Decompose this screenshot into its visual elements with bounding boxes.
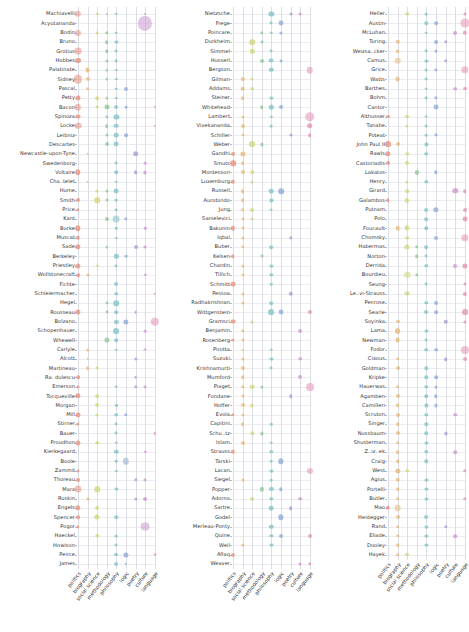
row-label: Carlyle: [5, 347, 75, 352]
data-bubble: [241, 357, 244, 360]
gridline-vertical: [262, 7, 263, 569]
axis-tick: [75, 303, 77, 304]
data-bubble: [76, 208, 79, 211]
data-bubble: [395, 226, 399, 230]
data-bubble: [404, 272, 410, 278]
gridline-horizontal: [233, 256, 310, 257]
data-bubble: [95, 534, 98, 537]
data-bubble: [415, 255, 418, 258]
row-label: Tillich: [160, 272, 230, 277]
data-bubble: [105, 134, 108, 137]
data-bubble: [241, 264, 244, 267]
axis-tick: [385, 219, 387, 220]
axis-tick: [385, 452, 387, 453]
data-bubble: [115, 199, 118, 202]
data-bubble: [269, 68, 273, 72]
axis-tick: [75, 163, 77, 164]
data-bubble: [288, 291, 292, 295]
data-bubble: [95, 441, 98, 444]
row-label: Evola: [160, 412, 230, 417]
axis-tick: [75, 294, 77, 295]
data-bubble: [453, 264, 457, 268]
row-label: Chomsky: [315, 235, 385, 240]
data-bubble: [260, 143, 263, 146]
data-bubble: [453, 188, 458, 193]
data-bubble: [115, 40, 118, 43]
data-bubble: [415, 245, 418, 248]
data-bubble: [453, 413, 456, 416]
gridline-vertical: [281, 7, 282, 569]
row-label: Aflaq: [160, 552, 230, 557]
axis-tick: [75, 359, 77, 360]
data-bubble: [115, 264, 118, 267]
row-label: Strauss: [160, 449, 230, 454]
data-bubble: [270, 208, 273, 211]
data-bubble: [270, 460, 273, 463]
data-bubble: [405, 226, 410, 231]
data-bubble: [425, 441, 428, 444]
gridline-vertical: [271, 7, 272, 569]
data-bubble: [405, 152, 408, 155]
data-bubble: [240, 86, 244, 90]
data-bubble: [434, 348, 438, 352]
data-bubble: [115, 208, 118, 211]
data-bubble: [75, 263, 80, 268]
data-bubble: [105, 40, 109, 44]
data-bubble: [453, 87, 457, 91]
data-bubble: [424, 208, 428, 212]
axis-tick: [385, 331, 387, 332]
row-label: Lakatos: [315, 170, 385, 175]
row-label: Pessoa: [160, 291, 230, 296]
data-bubble: [75, 104, 81, 110]
row-label: Kelsen: [160, 254, 230, 259]
data-bubble: [425, 339, 428, 342]
row-label: Schopenhauer: [5, 328, 75, 333]
data-bubble: [289, 134, 292, 137]
row-label: Thoreau: [5, 477, 75, 482]
gridline-vertical: [252, 7, 253, 569]
gridline-vertical: [88, 7, 89, 569]
row-label: Sade: [5, 244, 75, 249]
row-label: Durkheim: [160, 39, 230, 44]
data-bubble: [434, 385, 437, 388]
row-label: Engels: [5, 505, 75, 510]
axis-tick: [385, 247, 387, 248]
axis-tick: [75, 452, 77, 453]
data-bubble: [260, 40, 263, 43]
row-label: Agius: [315, 477, 385, 482]
axis-tick: [75, 555, 77, 556]
row-label: Rousseau: [5, 310, 75, 315]
row-label: Leibniz: [5, 133, 75, 138]
row-label: Galambos: [315, 198, 385, 203]
row-label: Weizsa..cker: [315, 49, 385, 54]
data-bubble: [114, 189, 119, 194]
data-bubble: [396, 357, 399, 360]
data-bubble: [463, 469, 466, 472]
data-bubble: [306, 67, 313, 74]
data-bubble: [114, 282, 118, 286]
data-bubble: [425, 31, 428, 34]
axis-tick: [75, 433, 77, 434]
data-bubble: [249, 39, 255, 45]
row-label: Hayek: [315, 552, 385, 557]
gridline-horizontal: [78, 154, 155, 155]
data-bubble: [270, 479, 273, 482]
data-bubble: [433, 207, 438, 212]
axis-tick: [230, 98, 232, 99]
axis-tick: [230, 219, 232, 220]
axis-tick: [385, 396, 387, 397]
row-label: Habermas: [315, 244, 385, 249]
data-bubble: [104, 338, 109, 343]
row-label: Sanielevici: [160, 216, 230, 221]
data-bubble: [425, 460, 428, 463]
data-bubble: [115, 432, 118, 435]
data-bubble: [434, 236, 438, 240]
axis-tick: [75, 368, 77, 369]
axis-tick: [385, 536, 387, 537]
axis-tick: [75, 182, 77, 183]
data-bubble: [434, 50, 437, 53]
row-label: Jung: [160, 207, 230, 212]
data-bubble: [77, 385, 80, 388]
data-bubble: [134, 357, 137, 360]
row-label: Heller: [315, 11, 385, 16]
